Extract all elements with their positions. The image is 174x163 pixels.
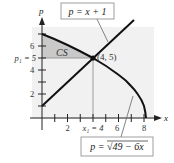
equilibrium-point	[90, 55, 95, 60]
x-tick-label-2: 2	[65, 123, 69, 133]
x-tick-label-8: 8	[142, 123, 146, 133]
cs-region-label: CS	[56, 47, 68, 58]
consumer-surplus-figure: p x 2 4 p₁ = 5 6 2 x₁ = 4 6 8 CS (4, 5) …	[0, 0, 174, 163]
y-tick-label-p1: p₁ = 5	[14, 53, 36, 63]
y-tick-label-6: 6	[30, 41, 34, 51]
supply-equation-label: p = x + 1	[68, 6, 107, 17]
x-axis-label: x	[163, 113, 168, 123]
y-tick-label-2: 2	[30, 89, 34, 99]
y-axis-arrow-icon	[39, 17, 45, 25]
x-axis-arrow-icon	[154, 115, 162, 121]
equilibrium-point-label: (4, 5)	[97, 52, 117, 62]
x-tick-label-6: 6	[115, 123, 119, 133]
y-axis-label: p	[38, 6, 44, 16]
demand-equation-label: p = √49 − 6x	[89, 141, 144, 152]
x-tick-label-x1: x₁ = 4	[82, 123, 105, 133]
